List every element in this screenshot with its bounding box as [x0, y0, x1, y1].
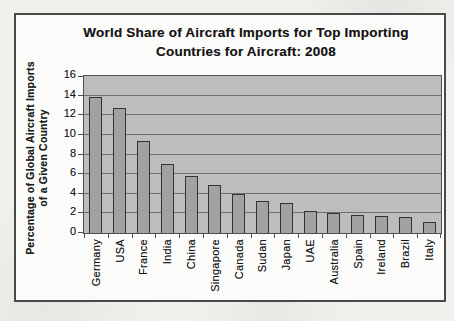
chart-title: World Share of Aircraft Imports for Top … [50, 23, 442, 61]
x-label-china: China [185, 239, 197, 269]
bar-ireland [375, 216, 388, 233]
bar-singapore [208, 185, 221, 233]
bar-china [185, 176, 198, 233]
x-label-cell-australia: Australia [322, 239, 346, 311]
x-tick-mark-8 [274, 234, 275, 238]
x-label-cell-usa: USA [108, 239, 132, 311]
y-tick-mark-8 [78, 154, 83, 155]
scanned-page: { "figure": { "title_line1": "World Shar… [0, 0, 454, 321]
x-tick-mark-4 [179, 234, 180, 238]
x-label-japan: Japan [280, 239, 292, 270]
bar-spain [351, 215, 364, 233]
y-tick-label-0: 0 [70, 225, 76, 237]
x-label-cell-china: China [179, 239, 203, 311]
bar-france [137, 141, 150, 233]
x-label-cell-brazil: Brazil [393, 239, 417, 311]
x-label-italy: Italy [423, 239, 435, 261]
chart-figure: World Share of Aircraft Imports for Top … [14, 13, 446, 302]
x-label-france: France [137, 239, 149, 275]
x-label-brazil: Brazil [399, 239, 411, 268]
x-label-cell-ireland: Ireland [370, 239, 394, 311]
x-tick-mark-5 [203, 234, 204, 238]
y-tick-mark-2 [78, 212, 83, 213]
bar-usa [113, 108, 126, 233]
gridline-10 [84, 134, 441, 135]
bar-japan [280, 203, 293, 233]
y-tick-label-6: 6 [70, 167, 76, 179]
x-label-cell-india: India [155, 239, 179, 311]
y-tick-label-14: 14 [64, 88, 76, 100]
x-label-singapore: Singapore [209, 239, 221, 292]
x-tick-mark-10 [322, 234, 323, 238]
y-tick-mark-12 [78, 114, 83, 115]
x-label-uae: UAE [304, 239, 316, 263]
y-tick-label-8: 8 [70, 147, 76, 159]
y-tick-label-2: 2 [70, 206, 76, 218]
x-label-cell-japan: Japan [274, 239, 298, 311]
y-tick-mark-0 [78, 232, 83, 233]
x-label-canada: Canada [233, 239, 245, 279]
x-label-spain: Spain [352, 239, 364, 269]
x-tick-mark-15 [440, 234, 441, 238]
x-tick-mark-3 [155, 234, 156, 238]
bar-uae [304, 211, 317, 233]
chart-title-line-2: Countries for Aircraft: 2008 [50, 42, 442, 61]
bar-sudan [256, 201, 269, 233]
bar-india [161, 164, 174, 233]
y-tick-label-16: 16 [64, 68, 76, 80]
bar-canada [232, 194, 245, 233]
x-tick-mark-11 [346, 234, 347, 238]
x-tick-mark-1 [108, 234, 109, 238]
y-tick-mark-14 [78, 95, 83, 96]
x-axis-labels: GermanyUSAFranceIndiaChinaSingaporeCanad… [84, 239, 441, 311]
y-axis-tick-labels: 0246810121416 [36, 75, 76, 232]
gridline-12 [84, 114, 441, 115]
x-tick-mark-14 [417, 234, 418, 238]
x-tick-mark-12 [370, 234, 371, 238]
x-label-cell-italy: Italy [417, 239, 441, 311]
x-tick-mark-2 [132, 234, 133, 238]
x-label-cell-france: France [132, 239, 156, 311]
bar-italy [423, 222, 436, 233]
y-tick-mark-10 [78, 134, 83, 135]
x-label-cell-sudan: Sudan [251, 239, 275, 311]
x-label-cell-uae: UAE [298, 239, 322, 311]
x-label-cell-germany: Germany [84, 239, 108, 311]
bar-brazil [399, 217, 412, 233]
x-label-australia: Australia [328, 239, 340, 285]
x-label-germany: Germany [90, 239, 102, 286]
x-label-usa: USA [114, 239, 126, 263]
bar-germany [89, 97, 102, 233]
bar-australia [327, 213, 340, 233]
x-tick-mark-6 [227, 234, 228, 238]
x-label-cell-spain: Spain [346, 239, 370, 311]
y-tick-mark-4 [78, 193, 83, 194]
y-tick-mark-6 [78, 173, 83, 174]
x-label-cell-singapore: Singapore [203, 239, 227, 311]
x-tick-mark-9 [298, 234, 299, 238]
x-label-ireland: Ireland [375, 239, 387, 275]
x-label-india: India [161, 239, 173, 264]
x-tick-mark-7 [251, 234, 252, 238]
x-label-sudan: Sudan [256, 239, 268, 272]
gridline-14 [84, 95, 441, 96]
x-tick-mark-13 [393, 234, 394, 238]
plot-area [83, 75, 442, 234]
y-tick-mark-16 [78, 76, 83, 77]
chart-title-line-1: World Share of Aircraft Imports for Top … [50, 23, 442, 42]
y-tick-label-4: 4 [70, 186, 76, 198]
y-tick-label-12: 12 [64, 108, 76, 120]
y-tick-label-10: 10 [64, 127, 76, 139]
x-label-cell-canada: Canada [227, 239, 251, 311]
x-tick-mark-0 [84, 234, 85, 238]
